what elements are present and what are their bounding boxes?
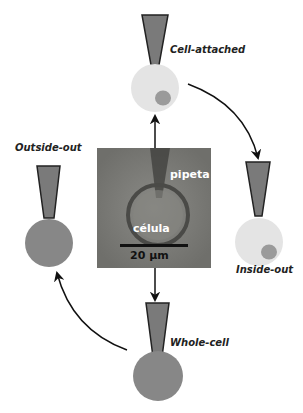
dark-cell-icon xyxy=(25,219,73,267)
light-cell-icon xyxy=(131,64,179,112)
dark-cell-icon xyxy=(133,351,183,401)
outside-out-label: Outside-out xyxy=(15,142,82,153)
pipette-icon xyxy=(146,303,169,357)
pipette-icon xyxy=(37,166,60,218)
pipette-icon xyxy=(246,162,270,216)
inside-out-group xyxy=(235,162,283,266)
whole-cell-group xyxy=(133,303,183,401)
arrow-to-inside-out xyxy=(188,84,258,158)
pipette-icon xyxy=(142,15,168,65)
cell-label: célula xyxy=(133,222,170,235)
whole-cell-label: Whole-cell xyxy=(170,337,229,348)
inside-out-label: Inside-out xyxy=(236,264,293,275)
outside-out-group xyxy=(25,166,73,267)
arrow-to-outside-out xyxy=(57,273,127,350)
scale-bar-label: 20 µm xyxy=(130,249,169,262)
patch-clamp-diagram xyxy=(0,0,303,413)
nucleus-icon xyxy=(261,245,277,260)
cell-attached-group xyxy=(131,15,179,112)
pipette-label: pipeta xyxy=(170,168,210,181)
nucleus-icon xyxy=(155,91,171,106)
scale-bar xyxy=(120,244,188,247)
cell-attached-label: Cell-attached xyxy=(170,44,245,55)
light-cell-icon xyxy=(235,218,283,266)
